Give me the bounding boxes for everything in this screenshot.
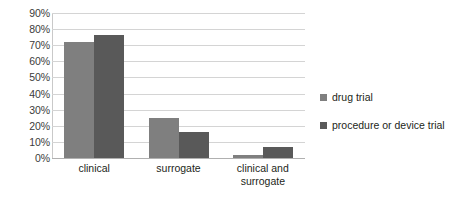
y-axis-tick-label: 90% <box>4 8 50 18</box>
bar-group <box>149 13 209 158</box>
y-axis-tick-label: 70% <box>4 40 50 50</box>
y-axis-tick-label: 80% <box>4 24 50 34</box>
legend-square-icon <box>320 122 327 129</box>
legend-square-icon <box>320 94 327 101</box>
y-axis-tick-label: 50% <box>4 72 50 82</box>
bar[interactable] <box>233 155 263 158</box>
y-axis-tick-label: 30% <box>4 105 50 115</box>
y-axis: 0%10%20%30%40%50%60%70%80%90% <box>0 0 50 206</box>
x-axis-category-label: clinical andsurrogate <box>221 162 305 188</box>
bar[interactable] <box>64 42 94 158</box>
y-axis-tick-label: 10% <box>4 137 50 147</box>
chart-legend: drug trialprocedure or device trial <box>320 89 455 145</box>
legend-item[interactable]: procedure or device trial <box>320 117 455 134</box>
y-axis-tick-label: 60% <box>4 56 50 66</box>
legend-item-label: drug trial <box>332 92 373 103</box>
bar[interactable] <box>94 35 124 158</box>
x-axis-category-label-line: clinical <box>52 162 136 175</box>
bar[interactable] <box>179 132 209 158</box>
y-axis-tick-label: 0% <box>4 153 50 163</box>
x-axis-category-label-line: surrogate <box>221 175 305 188</box>
x-axis-category-label: surrogate <box>136 162 220 175</box>
legend-item[interactable]: drug trial <box>320 89 455 106</box>
legend-item-label: procedure or device trial <box>332 120 445 131</box>
y-axis-tick-label: 40% <box>4 89 50 99</box>
x-axis-category-label-line: clinical and <box>221 162 305 175</box>
x-axis-category-label: clinical <box>52 162 136 175</box>
bar-group <box>233 13 293 158</box>
x-axis-baseline <box>52 158 305 159</box>
bar-group <box>64 13 124 158</box>
x-axis-category-labels: clinicalsurrogateclinical andsurrogate <box>52 162 305 206</box>
bar[interactable] <box>263 147 293 158</box>
x-axis-category-label-line: surrogate <box>136 162 220 175</box>
bar[interactable] <box>149 118 179 158</box>
plot-area <box>52 13 305 158</box>
y-axis-tick-label: 20% <box>4 121 50 131</box>
bar-chart: 0%10%20%30%40%50%60%70%80%90% clinicalsu… <box>0 0 455 206</box>
